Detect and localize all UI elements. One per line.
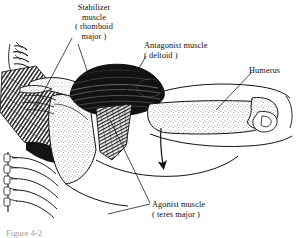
antagonist-label-line-2: ( deltoid ) [144,51,207,61]
antagonist-muscle-label: Antagonist muscle ( deltoid ) [144,41,207,60]
stabilizer-label-line-4: major ) [60,32,128,42]
agonist-muscle-label: Agonist muscle ( teres major ) [152,200,205,219]
stabilizer-label-line-2: muscle [60,13,128,23]
figure-caption: Figure 4-2 [6,228,42,238]
humerus-label: Humerus [249,66,280,76]
anatomy-figure: Stabilizer muscle ( rhomboid major ) Ant… [0,0,303,238]
agonist-label-line-1: Agonist muscle [152,200,205,210]
stabilizer-label-line-3: ( rhomboid [60,22,128,32]
agonist-label-line-2: ( teres major ) [152,210,205,220]
stabilizer-muscle-label: Stabilizer muscle ( rhomboid major ) [60,3,128,41]
antagonist-label-line-1: Antagonist muscle [144,41,207,51]
stabilizer-label-line-1: Stabilizer [60,3,128,13]
humerus-label-line-1: Humerus [249,66,280,76]
